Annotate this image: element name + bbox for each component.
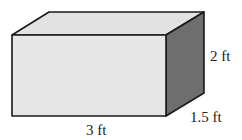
length-label: 3 ft xyxy=(86,123,106,138)
front-face xyxy=(12,35,166,116)
depth-label: 1.5 ft xyxy=(190,110,222,125)
height-label: 2 ft xyxy=(210,49,230,64)
